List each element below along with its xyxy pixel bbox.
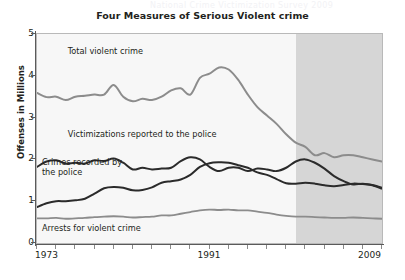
series-label: Victimizations reported to the police [68,130,217,139]
x-tick-mark [343,245,344,249]
x-tick-mark [189,245,190,249]
y-tick-mark [31,33,36,34]
series-line [37,210,382,219]
x-tick-mark [228,245,229,249]
faded-header-text: National Crime Victimization Survey 2009 [150,1,400,10]
x-tick-mark [74,245,75,249]
x-tick-label: 2009 [358,251,381,260]
x-tick-mark [304,245,305,249]
x-tick-mark [170,245,171,249]
x-tick-mark [209,245,210,249]
x-tick-mark [36,245,37,249]
x-tick-mark [55,245,56,249]
y-tick-mark [31,117,36,118]
chart-screenshot: National Crime Victimization Survey 2009… [0,0,405,280]
x-tick-label: 1991 [198,251,221,260]
x-tick-mark [247,245,248,249]
x-axis-line [35,244,384,245]
y-axis-tick-labels: 012345 [17,0,34,280]
x-tick-mark [362,245,363,249]
x-tick-label: 1973 [35,251,58,260]
series-line [37,67,382,161]
series-label: Total violent crime [68,47,143,56]
chart-title: Four Measures of Serious Violent crime [0,10,405,21]
series-label: Arrests for violent crime [42,224,141,233]
x-tick-mark [285,245,286,249]
y-tick-mark [31,200,36,201]
x-tick-mark [266,245,267,249]
x-tick-mark [94,245,95,249]
x-tick-mark [132,245,133,249]
x-tick-mark [151,245,152,249]
y-tick-mark [31,158,36,159]
y-tick-mark [31,75,36,76]
x-tick-mark [324,245,325,249]
series-label: Crimes recorded by the police [42,158,122,177]
x-tick-mark [381,245,382,249]
y-tick-mark [31,242,36,243]
x-tick-mark [113,245,114,249]
